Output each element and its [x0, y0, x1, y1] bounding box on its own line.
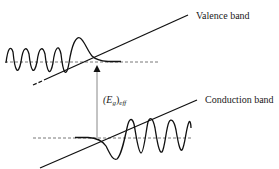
- conduction-band-label: Conduction band: [205, 94, 274, 105]
- valence-band-line: [44, 15, 188, 80]
- gap-arrowhead-icon: [94, 65, 101, 72]
- valence-band-dashed-start: [33, 81, 42, 85]
- valence-band-label: Valence band: [196, 10, 250, 21]
- band-diagram: (Eg)eff Valence band Conduction band: [0, 0, 279, 169]
- valence-wavefunction: [6, 38, 121, 73]
- conduction-wavefunction: [75, 119, 191, 160]
- gap-label: (Eg)eff: [103, 94, 127, 107]
